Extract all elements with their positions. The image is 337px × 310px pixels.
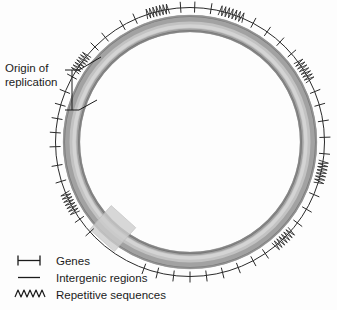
gene-tick-mark <box>293 220 302 227</box>
gene-tick-mark <box>180 2 181 13</box>
genome-map-figure: Origin of replication Genes Intergenic r… <box>0 0 337 310</box>
genome-feature-layer <box>50 2 331 283</box>
gene-barbell-icon <box>10 252 50 269</box>
legend-label-genes: Genes <box>50 255 90 267</box>
intergenic-line-icon <box>10 269 50 286</box>
gene-tick-mark <box>50 132 61 133</box>
legend-item-genes: Genes <box>10 252 210 269</box>
gene-tick-mark <box>264 27 270 36</box>
legend: Genes Intergenic regions Repetitive sequ… <box>10 252 210 303</box>
origin-of-replication-label: Origin of replication <box>5 62 71 89</box>
gene-tick-mark <box>319 153 330 154</box>
legend-item-intergenic-regions: Intergenic regions <box>10 269 210 286</box>
legend-label-repetitive-sequences: Repetitive sequences <box>50 289 166 301</box>
gene-tick-mark <box>75 216 84 222</box>
legend-label-intergenic-regions: Intergenic regions <box>50 272 147 284</box>
gene-tick-mark <box>91 43 99 51</box>
repetitive-zigzag-icon <box>10 286 50 303</box>
gene-tick-mark <box>262 249 268 258</box>
legend-item-repetitive-sequences: Repetitive sequences <box>10 286 210 303</box>
